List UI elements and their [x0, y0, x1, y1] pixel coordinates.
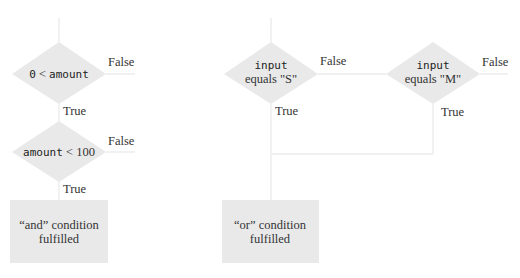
and-decision-1-text: 0 < amount — [29, 67, 89, 81]
or-result-line-2: fulfilled — [250, 232, 291, 246]
or-decision-1-false-label: False — [320, 54, 347, 68]
and-decision-2-true-label: True — [63, 182, 87, 196]
or-decision-1-text: equals "S" — [245, 72, 297, 86]
and-flowchart: 0 < amount False True amount < 100 False… — [10, 18, 135, 263]
and-decision-2-false-label: False — [108, 134, 135, 148]
or-decision-2-false-label: False — [482, 55, 509, 69]
or-decision-1-code: input — [254, 59, 287, 72]
and-decision-2-text: amount < 100 — [23, 145, 95, 159]
or-flowchart: input equals "S" False True input equals… — [222, 18, 509, 263]
or-decision-2-text: equals "M" — [405, 72, 461, 86]
and-decision-1-true-label: True — [63, 104, 87, 118]
and-decision-1-false-label: False — [108, 55, 135, 69]
or-decision-2-code: input — [416, 59, 449, 72]
flowchart-canvas: 0 < amount False True amount < 100 False… — [0, 0, 520, 278]
or-decision-2-true-label: True — [441, 105, 465, 119]
or-result-line-1: “or” condition — [234, 218, 307, 232]
and-result-line-2: fulfilled — [39, 232, 80, 246]
or-decision-1-true-label: True — [275, 104, 299, 118]
and-result-line-1: “and” condition — [19, 218, 99, 232]
